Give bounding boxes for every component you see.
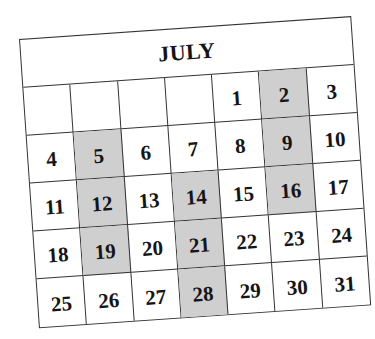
- day-cell: 27: [131, 270, 181, 321]
- shaded-day-cell: 9: [263, 116, 313, 167]
- shaded-day-cell: 12: [77, 177, 127, 228]
- calendar: JULY 12345678910111213141516171819202122…: [19, 16, 371, 328]
- empty-day-cell: [118, 78, 168, 129]
- day-cell: 25: [37, 276, 87, 327]
- day-cell: 23: [269, 212, 319, 263]
- day-grid: 1234567891011121314151617181920212223242…: [23, 65, 370, 327]
- day-cell: 22: [222, 215, 272, 266]
- day-cell: 13: [124, 174, 174, 225]
- day-cell: 20: [128, 222, 178, 273]
- shaded-day-cell: 21: [175, 218, 225, 269]
- day-cell: 7: [168, 123, 218, 174]
- shaded-day-cell: 19: [80, 225, 130, 276]
- shaded-day-cell: 5: [74, 129, 124, 180]
- day-cell: 24: [316, 209, 366, 260]
- day-cell: 31: [320, 257, 370, 308]
- day-cell: 4: [27, 132, 77, 183]
- day-cell: 18: [33, 228, 83, 279]
- day-cell: 30: [272, 260, 322, 311]
- day-cell: 29: [225, 263, 275, 314]
- day-cell: 6: [121, 126, 171, 177]
- day-cell: 1: [212, 72, 262, 123]
- day-cell: 3: [306, 65, 356, 116]
- shaded-day-cell: 28: [178, 266, 228, 317]
- day-cell: 11: [30, 180, 80, 231]
- day-cell: 10: [310, 113, 360, 164]
- shaded-day-cell: 16: [266, 164, 316, 215]
- day-cell: 8: [215, 119, 265, 170]
- day-cell: 15: [219, 167, 269, 218]
- empty-day-cell: [165, 75, 215, 126]
- shaded-day-cell: 2: [259, 68, 309, 119]
- day-cell: 17: [313, 161, 363, 212]
- shaded-day-cell: 14: [171, 171, 221, 222]
- empty-day-cell: [23, 85, 73, 136]
- empty-day-cell: [71, 81, 121, 132]
- day-cell: 26: [84, 273, 134, 324]
